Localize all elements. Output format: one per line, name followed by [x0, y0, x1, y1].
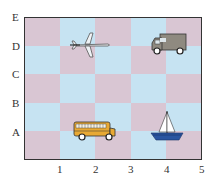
grid-cell: [25, 74, 60, 102]
x-label-2: 2: [93, 164, 99, 175]
truck-icon: [150, 33, 188, 55]
grid-cell: [166, 74, 201, 102]
sailboat-icon: [150, 109, 184, 143]
y-label-d: D: [12, 41, 20, 52]
y-label-c: C: [12, 69, 19, 80]
bus-icon: [73, 120, 117, 142]
y-label-e: E: [12, 12, 19, 23]
grid-cell: [131, 74, 166, 102]
x-label-4: 4: [164, 164, 170, 175]
grid-cell: [25, 131, 60, 159]
y-label-b: B: [12, 98, 19, 109]
x-label-3: 3: [128, 164, 134, 175]
airplane-icon: [70, 30, 112, 60]
grid-cell: [95, 74, 130, 102]
x-label-1: 1: [57, 164, 63, 175]
x-label-5: 5: [199, 164, 205, 175]
y-label-a: A: [12, 127, 20, 138]
grid-cell: [25, 46, 60, 74]
grid-cell: [25, 103, 60, 131]
grid-cell: [60, 74, 95, 102]
grid-cell: [25, 18, 60, 46]
